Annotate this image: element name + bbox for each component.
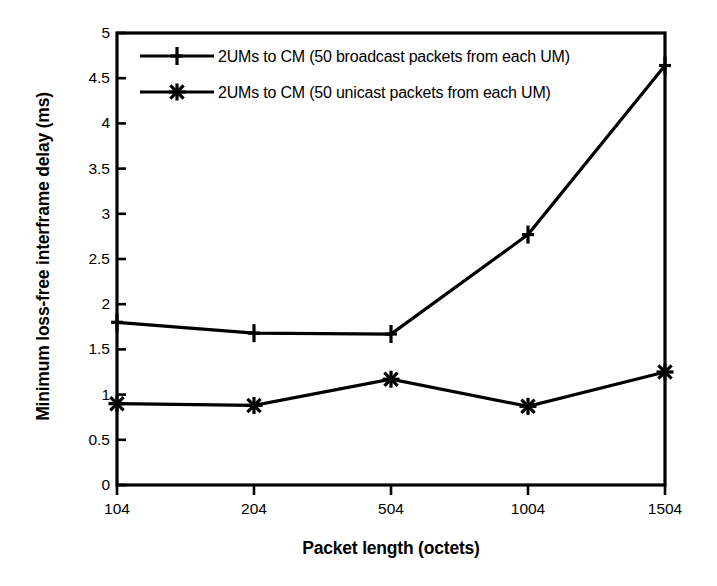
chart-figure: 00.511.522.533.544.55 10420450410041504 … — [0, 0, 717, 586]
legend-item-label-broadcast: 2UMs to CM (50 broadcast packets from ea… — [218, 49, 570, 65]
legend: 2UMs to CM (50 broadcast packets from ea… — [0, 0, 717, 586]
x-axis-title: Packet length (octets) — [117, 538, 665, 559]
legend-item-label-unicast: 2UMs to CM (50 unicast packets from each… — [218, 85, 551, 101]
y-axis-title: Minimum loss-free interframe delay (ms) — [33, 22, 54, 492]
